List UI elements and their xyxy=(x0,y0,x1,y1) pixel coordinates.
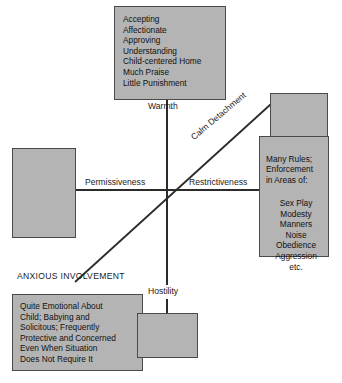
restrictiveness-area-list: Sex Play Modesty Manners Noise Obedience… xyxy=(266,198,326,272)
axis-label-anxious-involvement: ANXIOUS INVOLVEMENT xyxy=(17,271,125,281)
permissiveness-blank-box xyxy=(12,148,76,238)
warmth-traits-text: Accepting Affectionate Approving Underst… xyxy=(123,14,201,88)
axis-label-restrictiveness: Restrictiveness xyxy=(189,177,247,187)
axis-label-warmth: Warmth xyxy=(148,101,178,111)
restrictiveness-traits-box: Many Rules; Enforcement in Areas of: Sex… xyxy=(259,136,329,257)
axis-horizontal-right xyxy=(167,189,259,191)
anxious-involvement-traits-box: Quite Emotional About Child; Babying and… xyxy=(12,294,143,371)
restrictiveness-heading: Many Rules; Enforcement in Areas of: xyxy=(266,154,326,186)
diagram-canvas: Accepting Affectionate Approving Underst… xyxy=(0,0,342,383)
hostility-blank-box xyxy=(137,313,198,358)
restrictiveness-text-group: Many Rules; Enforcement in Areas of: Sex… xyxy=(266,143,326,283)
axis-label-permissiveness: Permissiveness xyxy=(85,177,145,187)
axis-vertical-mid xyxy=(166,124,168,285)
warmth-traits-box: Accepting Affectionate Approving Underst… xyxy=(114,6,226,100)
axis-horizontal-left xyxy=(76,189,166,191)
anxious-involvement-text: Quite Emotional About Child; Babying and… xyxy=(20,301,116,365)
calm-detachment-blank-box xyxy=(270,93,328,139)
axis-label-hostility: Hostility xyxy=(148,286,178,296)
